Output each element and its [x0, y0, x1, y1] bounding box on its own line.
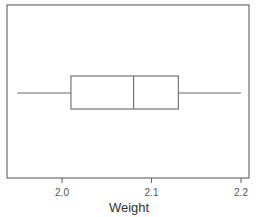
x-axis-label: Weight — [109, 200, 150, 215]
x-tick-label: 2.2 — [234, 187, 248, 198]
x-tick-label: 2.1 — [145, 187, 159, 198]
box-plot — [17, 76, 241, 109]
interquartile-box — [71, 76, 178, 109]
x-axis: 2.0 2.1 2.2 — [55, 178, 248, 198]
plot-frame — [7, 5, 249, 178]
boxplot-chart: 2.0 2.1 2.2 Weight — [0, 0, 263, 217]
x-tick-label: 2.0 — [55, 187, 69, 198]
